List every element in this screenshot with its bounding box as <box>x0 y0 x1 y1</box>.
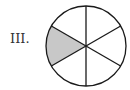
shaded-sector <box>46 26 86 66</box>
fraction-circle <box>0 0 130 90</box>
